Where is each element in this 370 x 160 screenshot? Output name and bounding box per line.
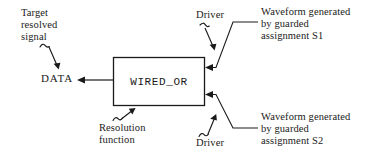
label-driver-bottom: Driver bbox=[196, 137, 224, 149]
label-resolution-function: Resolution function bbox=[99, 122, 146, 146]
driver-bottom-pointer bbox=[199, 114, 217, 137]
resolution-function-pointer bbox=[113, 108, 136, 121]
driver-top-pointer bbox=[200, 23, 216, 50]
diagram-canvas: WIRED_OR Target resolved signal DATA Dri… bbox=[0, 0, 370, 160]
target-resolved-signal-pointer bbox=[40, 44, 60, 69]
label-target-resolved-signal: Target resolved signal bbox=[21, 7, 57, 44]
label-waveform-s1: Waveform generated by guarded assignment… bbox=[261, 6, 350, 43]
wired-or-box-label: WIRED_OR bbox=[113, 57, 205, 106]
label-waveform-s2: Waveform generated by guarded assignment… bbox=[261, 111, 350, 148]
data-output-arrow bbox=[77, 77, 113, 84]
label-data: DATA bbox=[41, 72, 73, 84]
label-driver-top: Driver bbox=[196, 9, 224, 21]
